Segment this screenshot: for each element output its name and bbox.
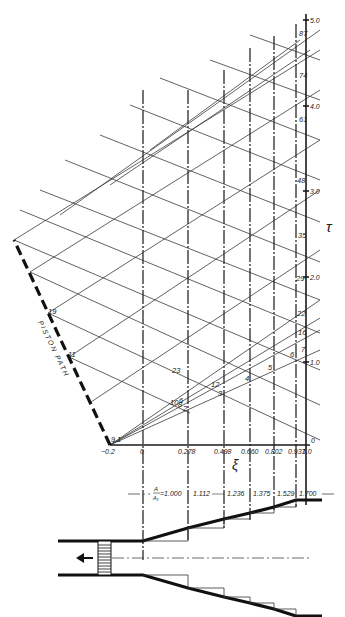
duct-lower-wall <box>58 575 322 616</box>
point-label: 3 <box>218 389 223 398</box>
svg-text:1.112: 1.112 <box>193 490 210 497</box>
svg-text:0: 0 <box>311 437 315 444</box>
xi-ticks: −0.2 0 0.278 0.498 0.660 0.802 0.937 1.0 <box>101 448 312 455</box>
svg-text:A: A <box>153 486 158 492</box>
point-label: 2 <box>182 404 188 413</box>
svg-text:3.0: 3.0 <box>310 188 320 195</box>
svg-text:A₁: A₁ <box>152 495 159 501</box>
svg-text:2.0: 2.0 <box>309 274 320 281</box>
svg-text:1.529: 1.529 <box>277 490 295 497</box>
xi-axis-label: ξ <box>232 457 239 473</box>
svg-text:−0.2: −0.2 <box>101 448 115 455</box>
characteristics-diagram: PISTON PATH 5.0 4.0 3.0 2.0 1.0 0 τ −0.2… <box>0 0 345 617</box>
svg-text:=1.000: =1.000 <box>160 490 182 497</box>
svg-text:1.700: 1.700 <box>299 490 317 497</box>
point-label: 61 <box>299 115 307 124</box>
point-label: 11 <box>68 350 76 359</box>
svg-text:0.802: 0.802 <box>265 448 283 455</box>
piston <box>98 541 111 575</box>
tau-axis-label: τ <box>326 218 333 235</box>
point-label: 19 <box>48 307 57 316</box>
point-label: 16 <box>298 328 307 337</box>
svg-text:0: 0 <box>140 448 144 455</box>
svg-text:0.278: 0.278 <box>178 448 196 455</box>
point-label: 5 <box>268 363 273 372</box>
point-label: 1 <box>117 435 121 444</box>
point-label: 4 <box>245 374 249 383</box>
svg-text:0.498: 0.498 <box>214 448 232 455</box>
point-label: 22 <box>296 309 306 318</box>
point-label: 87 <box>299 29 308 38</box>
svg-text:1.375: 1.375 <box>253 490 271 497</box>
point-label: 74 <box>299 71 307 80</box>
point-label: 35 <box>298 231 307 240</box>
arrow-left-icon <box>76 553 93 563</box>
svg-text:1.236: 1.236 <box>227 490 245 497</box>
point-label: 23 <box>171 366 181 375</box>
svg-text:5.0: 5.0 <box>310 17 320 24</box>
point-label: 48 <box>297 176 306 185</box>
duct-upper-wall <box>58 500 322 541</box>
svg-text:4.0: 4.0 <box>310 103 320 110</box>
point-label: 29 <box>295 274 305 283</box>
svg-text:1.0: 1.0 <box>302 448 312 455</box>
svg-text:0.660: 0.660 <box>241 448 259 455</box>
piston-path-line <box>14 240 110 445</box>
svg-text:1.0: 1.0 <box>310 359 320 366</box>
point-label: 6 <box>290 350 295 359</box>
point-label: 12 <box>211 380 220 389</box>
